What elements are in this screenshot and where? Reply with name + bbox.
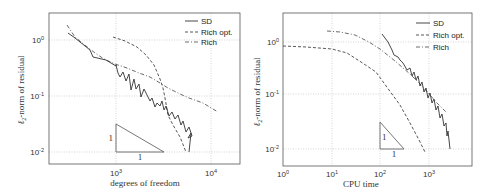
left-series-sd	[68, 33, 192, 152]
left-ytick-0: 100	[32, 35, 44, 45]
left-xlabel: degrees of freedom	[110, 178, 179, 188]
svg-text:1: 1	[382, 132, 387, 142]
right-ytick-0: 100	[267, 37, 279, 47]
left-ylabel: ℓ2-norm of residual	[16, 55, 27, 125]
right-xtick-3: 103	[423, 169, 435, 179]
left-xtick-1: 104	[205, 168, 217, 178]
right-legend-rich: Rich	[433, 43, 449, 52]
right-legend: SD Rich opt. Rich	[416, 19, 465, 52]
right-ylabel: ℓ2-norm of residual	[252, 57, 263, 127]
left-series-rich	[67, 25, 218, 112]
left-series-rich-opt	[113, 37, 186, 152]
svg-text:1: 1	[138, 152, 143, 162]
left-chart: 100 10-1 10-2 103 104 degrees of freedom…	[16, 13, 240, 188]
svg-text:1: 1	[392, 149, 397, 159]
right-slope-triangle: 1 1	[380, 122, 404, 159]
right-xtick-2: 102	[374, 169, 386, 179]
left-xtick-0: 103	[110, 168, 122, 178]
left-legend-rich: Rich	[201, 38, 217, 47]
right-ytick-2: 10-2	[265, 144, 279, 154]
right-series-rich	[327, 31, 446, 112]
left-legend-rich-opt: Rich opt.	[201, 28, 233, 37]
left-legend: SD Rich opt. Rich	[185, 17, 233, 47]
right-legend-sd: SD	[433, 19, 444, 28]
left-ytick-1: 10-1	[30, 91, 44, 101]
right-xtick-1: 101	[326, 169, 338, 179]
right-xlabel: CPU time	[343, 179, 379, 189]
left-ytick-2: 10-2	[30, 147, 44, 157]
right-legend-rich-opt: Rich opt.	[433, 31, 465, 40]
right-chart: 100 10-1 10-2 100 101 102 103 CPU time ℓ…	[252, 13, 472, 189]
figure: 100 10-1 10-2 103 104 degrees of freedom…	[0, 0, 493, 196]
svg-text:1: 1	[109, 133, 114, 143]
right-xtick-0: 100	[277, 169, 289, 179]
right-ytick-1: 10-1	[265, 89, 279, 99]
left-legend-sd: SD	[201, 17, 212, 26]
left-slope-triangle: 1 1	[109, 124, 165, 162]
right-series-rich-opt	[283, 46, 425, 152]
